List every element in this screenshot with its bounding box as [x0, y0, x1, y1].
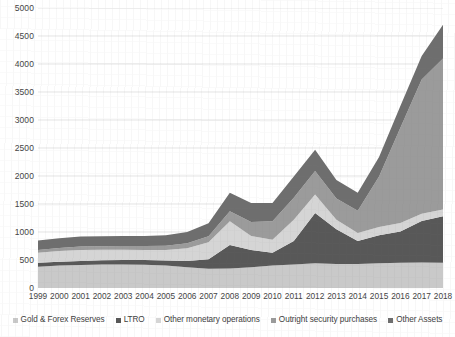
x-axis-tick-label: 2013: [327, 291, 345, 302]
legend-label: LTRO: [124, 315, 145, 325]
legend-swatch-icon: [116, 318, 121, 323]
y-axis-tick-label: 4500: [0, 32, 34, 41]
x-axis-tick-label: 2014: [349, 291, 367, 302]
x-axis-tick-label: 2010: [263, 291, 281, 302]
x-axis-tick-labels: 1999200020012002200320042005200620072008…: [38, 291, 443, 305]
x-axis-tick-label: 2005: [157, 291, 175, 302]
x-axis-tick-label: 2015: [370, 291, 388, 302]
x-axis-tick-label: 2012: [306, 291, 324, 302]
legend-label: Gold & Forex Reserves: [21, 315, 105, 325]
legend-swatch-icon: [13, 318, 18, 323]
legend-label: Other monetary operations: [164, 315, 260, 325]
y-axis-tick-labels: 0500100015002000250030003500400045005000: [0, 8, 34, 288]
y-axis-tick-label: 3000: [0, 116, 34, 125]
x-axis-tick-label: 2000: [50, 291, 68, 302]
x-axis-tick-label: 2006: [178, 291, 196, 302]
y-axis-tick-label: 2000: [0, 172, 34, 181]
legend-item[interactable]: Gold & Forex Reserves: [13, 315, 105, 325]
y-axis-tick-label: 2500: [0, 144, 34, 153]
x-axis-tick-label: 2002: [93, 291, 111, 302]
x-axis-tick-label: 1999: [29, 291, 47, 302]
x-axis-tick-label: 2008: [221, 291, 239, 302]
y-axis-tick-label: 4000: [0, 60, 34, 69]
y-axis-tick-label: 500: [0, 256, 34, 265]
legend-label: Outright security purchases: [279, 315, 377, 325]
y-axis-tick-label: 5000: [0, 4, 34, 13]
chart-legend: Gold & Forex ReservesLTROOther monetary …: [0, 313, 455, 327]
legend-swatch-icon: [388, 318, 393, 323]
x-axis-tick-label: 2011: [285, 291, 303, 302]
x-axis-tick-label: 2017: [412, 291, 430, 302]
plot-area: [38, 8, 443, 288]
legend-item[interactable]: Other monetary operations: [156, 315, 260, 325]
legend-item[interactable]: LTRO: [116, 315, 145, 325]
x-axis-tick-label: 2018: [434, 291, 452, 302]
x-axis-tick-label: 2001: [71, 291, 89, 302]
legend-item[interactable]: Other Assets: [388, 315, 442, 325]
x-axis-tick-label: 2009: [242, 291, 260, 302]
y-axis-tick-label: 1000: [0, 228, 34, 237]
stacked-area-chart: 0500100015002000250030003500400045005000…: [0, 0, 455, 337]
y-axis-tick-label: 1500: [0, 200, 34, 209]
x-axis-tick-label: 2003: [114, 291, 132, 302]
legend-swatch-icon: [271, 318, 276, 323]
plot-svg: [38, 8, 443, 288]
legend-item[interactable]: Outright security purchases: [271, 315, 377, 325]
x-axis-tick-label: 2007: [199, 291, 217, 302]
y-axis-tick-label: 3500: [0, 88, 34, 97]
legend-label: Other Assets: [396, 315, 442, 325]
legend-swatch-icon: [156, 318, 161, 323]
x-axis-tick-label: 2016: [391, 291, 409, 302]
x-axis-tick-label: 2004: [135, 291, 153, 302]
